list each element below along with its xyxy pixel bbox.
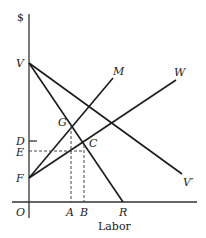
labor-cost-diagram: $ V D E F G C M W V′ O A B R Labor <box>0 0 206 238</box>
y-axis-label: $ <box>17 11 24 24</box>
label-vprime: V′ <box>183 176 194 189</box>
label-w: W <box>174 66 187 79</box>
label-c: C <box>89 137 98 150</box>
label-b: B <box>79 206 88 219</box>
label-origin: O <box>16 206 25 219</box>
label-m: M <box>112 65 125 78</box>
label-a: A <box>65 206 74 219</box>
x-axis-label: Labor <box>98 220 132 233</box>
label-g: G <box>58 116 67 129</box>
label-e: E <box>15 146 24 159</box>
label-r: R <box>118 206 127 219</box>
label-f: F <box>15 172 24 185</box>
label-v: V <box>16 57 25 70</box>
line-v-vprime <box>29 63 182 174</box>
